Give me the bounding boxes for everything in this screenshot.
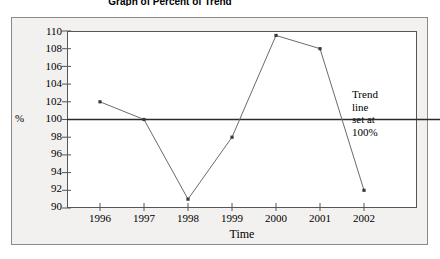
data-series-line	[100, 35, 364, 199]
plot-svg	[0, 0, 440, 259]
x-axis-ticks	[100, 203, 364, 211]
chart-figure: Graph of Percent of Trend 110 108 106 10…	[0, 0, 440, 259]
